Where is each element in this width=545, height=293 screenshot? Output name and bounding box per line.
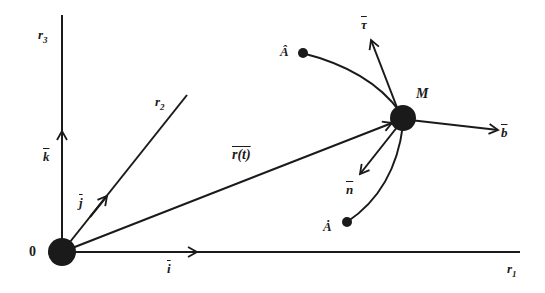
trajectory-curve-lower — [347, 125, 403, 222]
origin-point — [48, 238, 76, 266]
point-M-label: M — [416, 87, 428, 101]
diagram-canvas: r3 r2 r1 0 k j i r(t) M Â Ȧ τ b n — [0, 0, 545, 293]
j-vector-arrow — [90, 196, 107, 217]
trajectory-curve-upper — [302, 53, 400, 112]
position-vector-label: r(t) — [232, 148, 251, 162]
origin-label: 0 — [29, 245, 36, 259]
tau-vector-label: τ — [361, 18, 367, 31]
tau-vector-arrow — [371, 40, 398, 110]
r1-axis-label: r1 — [507, 262, 517, 279]
point-A-dot — [342, 217, 352, 227]
point-A-hat — [298, 48, 308, 58]
r2-axis-label: r2 — [155, 95, 165, 112]
b-vector-arrow — [410, 120, 498, 130]
point-A-dot-label: Ȧ — [323, 220, 332, 233]
i-vector-label: i — [167, 262, 171, 275]
point-A-hat-label: Â — [280, 45, 289, 58]
r3-axis-label: r3 — [38, 28, 48, 45]
position-vector-r-t — [62, 123, 392, 252]
k-vector-label: k — [43, 150, 50, 163]
point-M — [390, 105, 416, 131]
diagram-svg — [0, 0, 545, 293]
j-vector-label: j — [79, 196, 83, 209]
n-vector-label: n — [346, 183, 353, 196]
b-vector-label: b — [501, 126, 508, 139]
